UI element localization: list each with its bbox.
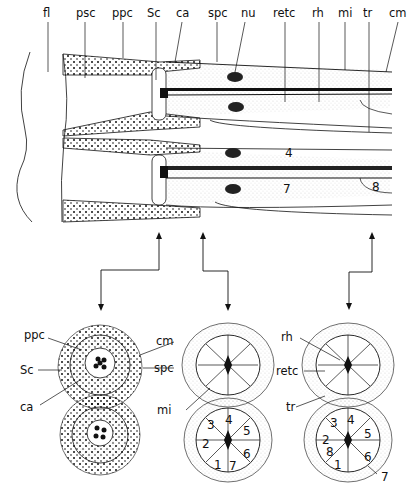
cs2-cell-1: 1 [214,458,222,472]
cs3-cell-4: 4 [347,413,355,427]
cross-section-middle [182,323,274,482]
cell-number-7: 7 [283,182,291,196]
label-ca: ca [176,7,189,19]
cs2-cell-2: 2 [202,437,210,451]
rhabdom-bottom [166,166,392,170]
cs3-label-retc: retc [276,365,298,377]
label-rh: rh [312,7,324,19]
cs2-cell-5: 5 [243,424,251,438]
cs1-label-sc: Sc [20,364,34,376]
cs2-cell-4: 4 [225,413,233,427]
label-ppc: ppc [112,7,133,19]
cell-number-4: 4 [285,146,293,160]
label-spc: spc [208,7,228,19]
cs3-label-tr: tr [286,401,295,413]
cs1-label-ppc: ppc [24,329,45,341]
label-nu: nu [241,7,256,19]
rhabdom-top [166,88,392,91]
label-cm: cm [389,7,407,19]
cs2-cell-6: 6 [243,447,251,461]
nucleus [228,102,244,112]
cone-cell-bottom [152,155,166,205]
cs2-label-mi: mi [157,404,171,416]
cs3-cell-3: 3 [330,416,338,430]
cell-number-8: 8 [372,180,380,194]
cs3-label-rh: rh [281,331,293,343]
cs3-cell-6: 6 [364,450,372,464]
label-mi: mi [338,7,352,19]
label-tr: tr [363,7,372,19]
cs3-cell-8: 8 [326,445,334,459]
label-retc: retc [273,7,295,19]
nucleus [225,148,241,158]
label-psc: psc [76,7,96,19]
pigment-cell-middle-upper [63,112,200,136]
cs1-label-ca: ca [20,401,33,413]
nucleus [225,184,241,194]
cs-label-cm: cm [156,335,174,347]
cs2-cell-3: 3 [207,418,215,432]
cs-label-spc: spc [154,362,174,374]
facet-lens-outline [17,52,32,222]
cross-section-distal [58,325,142,475]
cs2-cell-7: 7 [229,459,237,473]
label-fl: fl [43,7,50,19]
cs3-cell-5: 5 [364,427,372,441]
cs3-cell-7: 7 [381,470,389,484]
label-sc: Sc [147,7,161,19]
nucleus [227,72,243,82]
cs3-cell-1: 1 [334,458,342,472]
